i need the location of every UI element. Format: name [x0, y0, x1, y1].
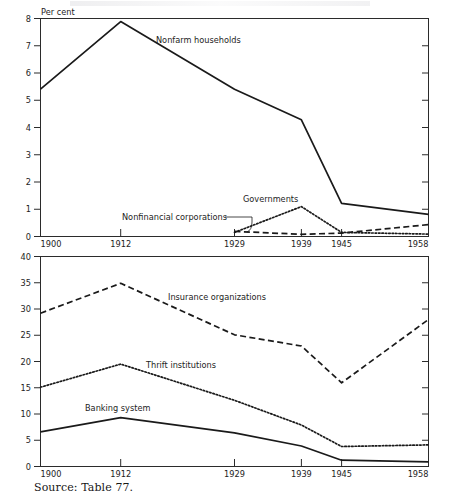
top-xtick-1912: 1912 — [110, 239, 131, 249]
bottom-ytick-5: 5 — [26, 435, 31, 445]
chart-svg: Per cent — [0, 0, 451, 504]
top-ytick-7: 7 — [26, 41, 31, 51]
top-y-ticks — [34, 19, 41, 237]
bottom-panel: 40 35 30 25 20 15 10 5 0 1900 1912 1929 — [21, 252, 429, 480]
bottom-xtick-1912: 1912 — [110, 469, 131, 479]
top-y-ticklabels: 8 7 6 5 4 3 2 1 0 — [26, 14, 31, 242]
series-banking-system — [41, 418, 429, 462]
top-x-ticks — [121, 229, 342, 237]
annotation-thrift-institutions: Thrift institutions — [145, 360, 216, 370]
bottom-xtick-1945: 1945 — [331, 469, 352, 479]
bottom-ytick-30: 30 — [21, 304, 31, 314]
top-x-ticklabels: 1900 1912 1929 1939 1945 1958 — [41, 239, 429, 249]
top-xtick-1929: 1929 — [224, 239, 245, 249]
annotation-banking-system: Banking system — [85, 403, 150, 413]
top-ytick-3: 3 — [26, 150, 31, 160]
top-y-ticks-right — [422, 46, 429, 210]
top-xtick-1945: 1945 — [331, 239, 352, 249]
bottom-y-ticks — [34, 257, 41, 467]
top-ytick-6: 6 — [26, 68, 31, 78]
bottom-x-ticklabels: 1900 1912 1929 1939 1945 1958 — [41, 469, 429, 479]
top-xtick-1900: 1900 — [41, 239, 62, 249]
bottom-xtick-1958: 1958 — [408, 469, 429, 479]
top-ytick-0: 0 — [26, 232, 31, 242]
bottom-ytick-25: 25 — [21, 330, 31, 340]
bottom-ytick-10: 10 — [21, 409, 31, 419]
top-panel: Per cent — [26, 7, 429, 249]
top-y-axis-label: Per cent — [41, 7, 75, 17]
bottom-y-ticklabels: 40 35 30 25 20 15 10 5 0 — [21, 252, 31, 472]
bottom-ytick-0: 0 — [26, 462, 31, 472]
top-ytick-1: 1 — [26, 204, 31, 214]
annotation-insurance-organizations: Insurance organizations — [168, 292, 266, 302]
source-note: Source: Table 77. — [34, 481, 133, 494]
bottom-ytick-20: 20 — [21, 357, 31, 367]
bottom-y-ticks-right — [422, 283, 429, 441]
bottom-xtick-1939: 1939 — [291, 469, 312, 479]
top-ytick-8: 8 — [26, 14, 31, 24]
annotation-governments: Governments — [243, 194, 298, 204]
bottom-xtick-1900: 1900 — [41, 469, 62, 479]
top-xtick-1958: 1958 — [408, 239, 429, 249]
annotation-nonfarm-households: Nonfarm households — [156, 35, 241, 45]
bottom-xtick-1929: 1929 — [224, 469, 245, 479]
bottom-ytick-40: 40 — [21, 252, 31, 262]
bottom-ytick-35: 35 — [21, 278, 31, 288]
top-plot-frame — [41, 19, 429, 237]
bottom-ytick-15: 15 — [21, 383, 31, 393]
bottom-x-ticks — [121, 459, 342, 467]
leader-line-nonfinancial-corporations — [225, 217, 252, 232]
top-xtick-1939: 1939 — [291, 239, 312, 249]
top-ytick-2: 2 — [26, 177, 31, 187]
series-nonfarm-households — [41, 22, 429, 215]
annotation-nonfinancial-corporations: Nonfinancial corporations — [122, 212, 227, 222]
top-ytick-5: 5 — [26, 95, 31, 105]
figure-two-panel-line-chart: Per cent — [0, 0, 451, 504]
top-ytick-4: 4 — [26, 123, 31, 133]
